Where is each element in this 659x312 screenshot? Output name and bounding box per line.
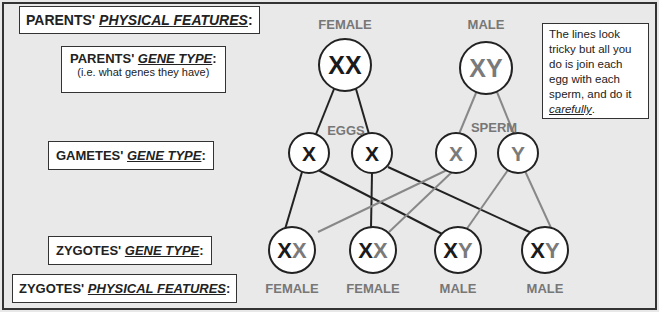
zygote-4: XY: [525, 238, 565, 264]
label-emph: GENE TYPE: [125, 243, 199, 258]
zygote-1-sex: FEMALE: [252, 281, 332, 296]
zygote-3: XY: [438, 238, 478, 264]
instruction-note: The lines look tricky but all you do is …: [542, 23, 649, 119]
note-emphasis: carefully: [549, 103, 592, 115]
zygote-2-sex: FEMALE: [333, 281, 413, 296]
parents-physical-label: PARENTS' PHYSICAL FEATURES:: [19, 6, 260, 34]
female-caption: FEMALE: [305, 17, 385, 32]
zygote-3-sex: MALE: [418, 281, 498, 296]
female-genes: XX: [320, 51, 370, 80]
eggs-caption: EGGS: [321, 123, 371, 138]
label-prefix: GAMETES': [56, 148, 127, 163]
zygotes-physical-label: ZYGOTES' PHYSICAL FEATURES:: [12, 274, 237, 303]
label-prefix: ZYGOTES': [56, 243, 125, 258]
label-subtitle: (i.e. what genes they have): [70, 66, 217, 78]
parents-gene-label: PARENTS' GENE TYPE: (i.e. what genes the…: [61, 46, 226, 93]
label-emph: PHYSICAL FEATURES: [99, 12, 248, 28]
zygote-gene-father: Y: [458, 238, 473, 263]
sperm-1: X: [441, 142, 471, 166]
zygote-1: XX: [272, 238, 312, 264]
zygote-gene-father: X: [373, 238, 388, 263]
zygotes-gene-label: ZYGOTES' GENE TYPE:: [48, 236, 212, 265]
zygote-gene-mother: X: [443, 238, 458, 263]
sperm-2: Y: [503, 142, 533, 166]
label-suffix: :: [212, 51, 216, 66]
zygote-gene-mother: X: [277, 238, 292, 263]
male-genes: XY: [461, 54, 511, 83]
label-suffix: :: [201, 148, 205, 163]
label-suffix: :: [248, 12, 253, 28]
label-emph: GENE TYPE: [127, 148, 201, 163]
zygote-4-sex: MALE: [505, 281, 585, 296]
gametes-gene-label: GAMETES' GENE TYPE:: [48, 141, 214, 170]
label-suffix: :: [199, 243, 203, 258]
sperm-caption: SPERM: [464, 120, 524, 135]
label-suffix: :: [226, 281, 230, 296]
label-emph: PHYSICAL FEATURES: [88, 281, 226, 296]
egg-1: X: [294, 142, 324, 166]
zygote-gene-mother: X: [358, 238, 373, 263]
note-text: The lines look tricky but all you do is …: [549, 28, 631, 100]
label-prefix: PARENTS': [70, 51, 138, 66]
zygote-gene-mother: X: [530, 238, 545, 263]
label-prefix: PARENTS': [26, 12, 99, 28]
zygote-2: XX: [353, 238, 393, 264]
male-caption: MALE: [446, 17, 526, 32]
label-emph: GENE TYPE: [138, 51, 212, 66]
egg-2: X: [357, 142, 387, 166]
zygote-gene-father: Y: [545, 238, 560, 263]
zygote-gene-father: X: [292, 238, 307, 263]
label-prefix: ZYGOTES': [19, 281, 88, 296]
note-end: .: [592, 103, 595, 115]
